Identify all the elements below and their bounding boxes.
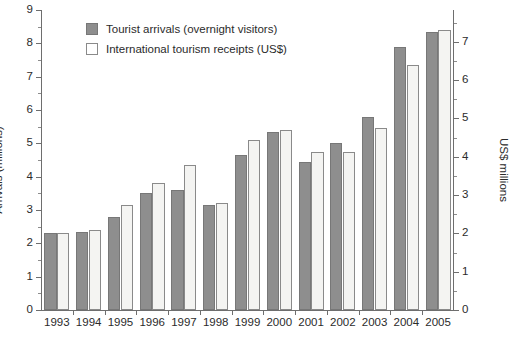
bar-receipts xyxy=(121,205,133,310)
bar-receipts xyxy=(57,233,69,310)
x-axis-tick xyxy=(295,311,296,315)
y-axis-left-tick-label: 6 xyxy=(27,104,33,116)
bar-receipts xyxy=(311,152,323,310)
y-axis-right-tick xyxy=(454,195,459,196)
x-axis-label: 1998 xyxy=(203,316,229,328)
bar-arrivals xyxy=(426,32,438,310)
x-axis-label: 2002 xyxy=(330,316,356,328)
bar-group xyxy=(394,10,419,310)
y-axis-right-tick xyxy=(454,42,459,43)
x-axis-label: 1997 xyxy=(171,316,197,328)
x-axis-label: 2005 xyxy=(425,316,451,328)
y-axis-left-tick-label: 7 xyxy=(27,71,33,83)
x-axis-label: 1995 xyxy=(108,316,134,328)
legend-swatch-receipts-icon xyxy=(86,43,98,55)
bar-receipts xyxy=(438,30,450,310)
y-axis-left-tick-label: 2 xyxy=(27,237,33,249)
legend-item-receipts: International tourism receipts (US$) xyxy=(86,42,287,56)
y-axis-right-tick xyxy=(454,272,459,273)
y-axis-right-tick xyxy=(454,233,459,234)
bar-arrivals xyxy=(330,143,342,310)
x-axis-tick xyxy=(390,311,391,315)
bar-group xyxy=(299,10,324,310)
y-axis-right-minor-tick xyxy=(454,176,457,177)
legend: Tourist arrivals (overnight visitors) In… xyxy=(86,22,287,62)
y-axis-right-tick-label: 3 xyxy=(462,189,468,201)
x-axis-tick xyxy=(200,311,201,315)
bar-arrivals xyxy=(394,47,406,310)
bar-arrivals xyxy=(235,155,247,310)
bar-receipts xyxy=(343,152,355,310)
legend-label-arrivals: Tourist arrivals (overnight visitors) xyxy=(106,23,277,35)
y-axis-right-minor-tick xyxy=(454,99,457,100)
x-axis-tick xyxy=(422,311,423,315)
y-axis-left-tick-label: 9 xyxy=(27,4,33,16)
x-axis-tick xyxy=(327,311,328,315)
bar-receipts xyxy=(280,130,292,310)
x-axis-tick xyxy=(168,311,169,315)
bar-arrivals xyxy=(140,193,152,310)
y-axis-right-tick-label: 7 xyxy=(462,36,468,48)
x-axis-label: 1994 xyxy=(76,316,102,328)
y-axis-right-minor-tick xyxy=(454,23,457,24)
plot-area: 0123456789 01234567 Tourist arrivals (ov… xyxy=(41,10,454,311)
bar-receipts xyxy=(375,128,387,310)
y-axis-right-title: US$ millions xyxy=(498,138,510,202)
y-axis-right-tick-label: 6 xyxy=(462,74,468,86)
bar-arrivals xyxy=(299,162,311,310)
bar-receipts xyxy=(248,140,260,310)
bar-arrivals xyxy=(108,217,120,310)
x-axis-label: 2003 xyxy=(362,316,388,328)
y-axis-left-title: Arrivals (millions) xyxy=(0,126,4,214)
y-axis-right-tick-label: 4 xyxy=(462,151,468,163)
x-axis-label: 2000 xyxy=(266,316,292,328)
bar-arrivals xyxy=(267,132,279,310)
bar-receipts xyxy=(184,165,196,310)
y-axis-right-tick-label: 5 xyxy=(462,112,468,124)
bar-arrivals xyxy=(203,205,215,310)
x-axis-label: 2004 xyxy=(394,316,420,328)
y-axis-right-tick-label: 0 xyxy=(462,304,468,316)
legend-swatch-arrivals-icon xyxy=(86,23,98,35)
y-axis-right-tick xyxy=(454,157,459,158)
y-axis-left-tick-label: 4 xyxy=(27,171,33,183)
x-axis-label: 2001 xyxy=(298,316,324,328)
bar-receipts xyxy=(216,203,228,310)
y-axis-left-tick-label: 1 xyxy=(27,271,33,283)
y-axis-right-minor-tick xyxy=(454,138,457,139)
bar-arrivals xyxy=(171,190,183,310)
legend-label-receipts: International tourism receipts (US$) xyxy=(106,43,287,55)
x-axis-label: 1999 xyxy=(235,316,261,328)
legend-item-arrivals: Tourist arrivals (overnight visitors) xyxy=(86,22,287,36)
x-axis-label: 1993 xyxy=(44,316,70,328)
x-axis-tick xyxy=(105,311,106,315)
y-axis-left-tick-label: 0 xyxy=(27,304,33,316)
x-axis-tick xyxy=(263,311,264,315)
y-axis-right-tick xyxy=(454,118,459,119)
y-axis-right-tick xyxy=(454,310,459,311)
x-axis-label: 1996 xyxy=(139,316,165,328)
bar-arrivals xyxy=(362,117,374,310)
bar-arrivals xyxy=(76,232,88,310)
y-axis-right-tick-label: 1 xyxy=(462,266,468,278)
y-axis-left-tick-label: 3 xyxy=(27,204,33,216)
bar-group xyxy=(44,10,69,310)
x-axis-tick xyxy=(232,311,233,315)
y-axis-left-tick-label: 5 xyxy=(27,137,33,149)
y-axis-left-tick-label: 8 xyxy=(27,37,33,49)
x-axis-tick xyxy=(73,311,74,315)
bar-receipts xyxy=(89,230,101,310)
bar-group xyxy=(426,10,451,310)
bar-receipts xyxy=(152,183,164,310)
y-axis-right-tick-label: 2 xyxy=(462,227,468,239)
y-axis-right-minor-tick xyxy=(454,253,457,254)
bar-group xyxy=(362,10,387,310)
x-axis-tick xyxy=(136,311,137,315)
y-axis-right-tick xyxy=(454,80,459,81)
bar-arrivals xyxy=(44,233,56,310)
bar-group xyxy=(330,10,355,310)
y-axis-right-minor-tick xyxy=(454,291,457,292)
bar-receipts xyxy=(407,65,419,310)
x-axis-tick xyxy=(359,311,360,315)
